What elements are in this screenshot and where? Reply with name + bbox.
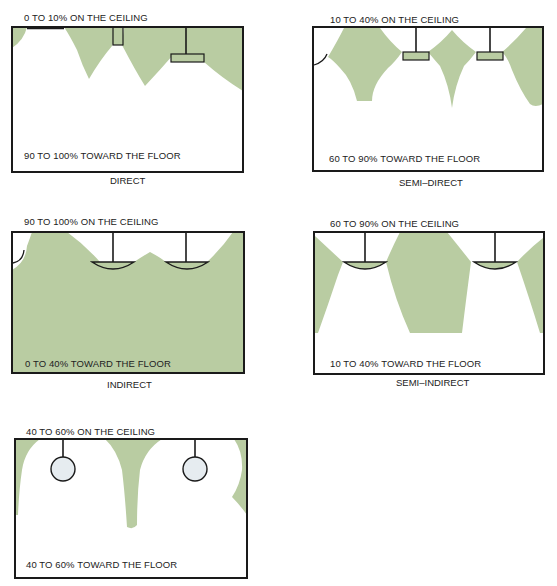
general-diffuse-diagram (0, 0, 557, 586)
floor-label: 40 TO 60% TOWARD THE FLOOR (26, 559, 177, 570)
